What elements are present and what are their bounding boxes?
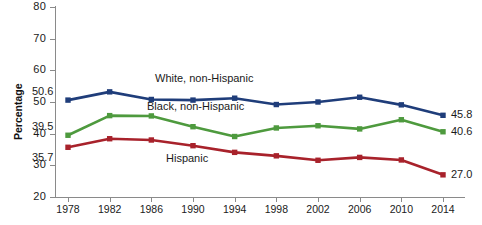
series-line <box>68 116 443 137</box>
data-point-marker <box>315 158 320 163</box>
data-point-marker <box>357 95 362 100</box>
data-point-marker <box>107 113 112 118</box>
data-point-marker <box>357 155 362 160</box>
end-value-label: 27.0 <box>451 168 472 180</box>
data-point-marker <box>315 99 320 104</box>
data-point-marker <box>149 113 154 118</box>
end-value-label: 45.8 <box>451 108 472 120</box>
series-line <box>68 92 443 115</box>
data-point-marker <box>399 117 404 122</box>
data-point-marker <box>232 134 237 139</box>
data-point-marker <box>232 150 237 155</box>
data-point-marker <box>65 133 70 138</box>
series-layer <box>0 0 482 225</box>
series-annotation: Hispanic <box>166 152 208 164</box>
data-point-marker <box>399 102 404 107</box>
data-point-marker <box>107 136 112 141</box>
data-point-marker <box>65 145 70 150</box>
data-point-marker <box>190 143 195 148</box>
data-point-marker <box>274 102 279 107</box>
data-point-marker <box>65 97 70 102</box>
data-point-marker <box>315 123 320 128</box>
data-point-marker <box>190 124 195 129</box>
series-line <box>68 139 443 175</box>
data-point-marker <box>440 113 445 118</box>
data-point-marker <box>440 129 445 134</box>
data-point-marker <box>399 157 404 162</box>
series-annotation: White, non-Hispanic <box>155 72 253 84</box>
start-value-label: 39.5 <box>32 120 53 132</box>
end-value-label: 40.6 <box>451 125 472 137</box>
data-point-marker <box>107 89 112 94</box>
data-point-marker <box>149 137 154 142</box>
chart-container: Percentage 20304050607080 19781982198619… <box>0 0 482 225</box>
data-point-marker <box>357 126 362 131</box>
series-annotation: Black, non-Hispanic <box>147 100 244 112</box>
data-point-marker <box>440 172 445 177</box>
start-value-label: 50.6 <box>32 85 53 97</box>
data-point-marker <box>274 153 279 158</box>
data-point-marker <box>274 125 279 130</box>
start-value-label: 35.7 <box>32 151 53 163</box>
caption-strip <box>0 219 482 225</box>
